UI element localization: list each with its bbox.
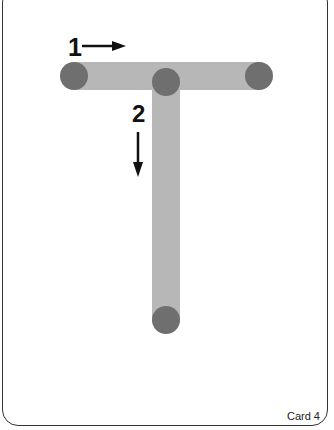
start-dot-stroke-1 xyxy=(60,62,88,90)
card-label: Card 4 xyxy=(287,410,320,422)
end-dot-stroke-1 xyxy=(245,62,273,90)
start-dot-stroke-2 xyxy=(152,68,180,96)
stroke-2-number: 2 xyxy=(132,102,145,126)
arrow-down-icon xyxy=(132,132,144,178)
stroke-2-vertical xyxy=(152,70,180,322)
arrow-right-icon xyxy=(82,40,127,52)
stroke-1-number: 1 xyxy=(68,35,82,60)
end-dot-stroke-2 xyxy=(152,306,180,334)
